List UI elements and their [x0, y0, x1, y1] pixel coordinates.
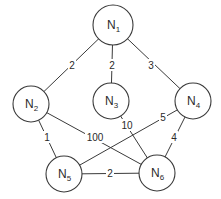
edge-weight-label: 5 — [160, 112, 166, 123]
edge-weight-label: 100 — [87, 132, 104, 143]
nodes-layer: N1N2N3N4N5N6 — [13, 5, 211, 192]
edge-weight-label: 1 — [44, 132, 50, 143]
edge-weight-label: 4 — [171, 132, 177, 143]
node-n3: N3 — [93, 83, 129, 119]
edge-weight-label: 2 — [107, 168, 113, 179]
edge-weight-label: 3 — [148, 60, 154, 71]
graph-diagram: 223110010542 N1N2N3N4N5N6 — [0, 0, 221, 199]
edge-weight-label: 2 — [69, 60, 75, 71]
edge-weight-label: 10 — [121, 120, 133, 131]
edge-weight-label: 2 — [109, 60, 115, 71]
node-n4: N4 — [175, 83, 211, 119]
node-n6: N6 — [139, 155, 175, 191]
node-n5: N5 — [46, 156, 82, 192]
node-n2: N2 — [13, 86, 49, 122]
node-n1: N1 — [93, 5, 133, 45]
